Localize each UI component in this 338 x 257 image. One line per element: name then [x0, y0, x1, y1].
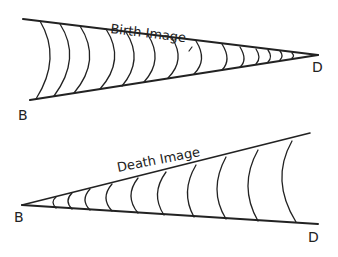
birth-end-label: D: [312, 59, 323, 75]
birth-bottom-line: [30, 55, 318, 100]
death-top-line: [22, 133, 310, 205]
birth-title: Birth Image: [110, 21, 187, 45]
death-start-label: B: [14, 209, 24, 225]
death-image-diagram: [22, 133, 318, 224]
death-bottom-line: [22, 205, 318, 224]
birth-start-label: B: [18, 107, 28, 123]
birth-arrow: [189, 47, 192, 51]
death-end-label: D: [308, 229, 319, 245]
diagram-canvas: Birth Image B D Death Image B D: [0, 0, 338, 257]
